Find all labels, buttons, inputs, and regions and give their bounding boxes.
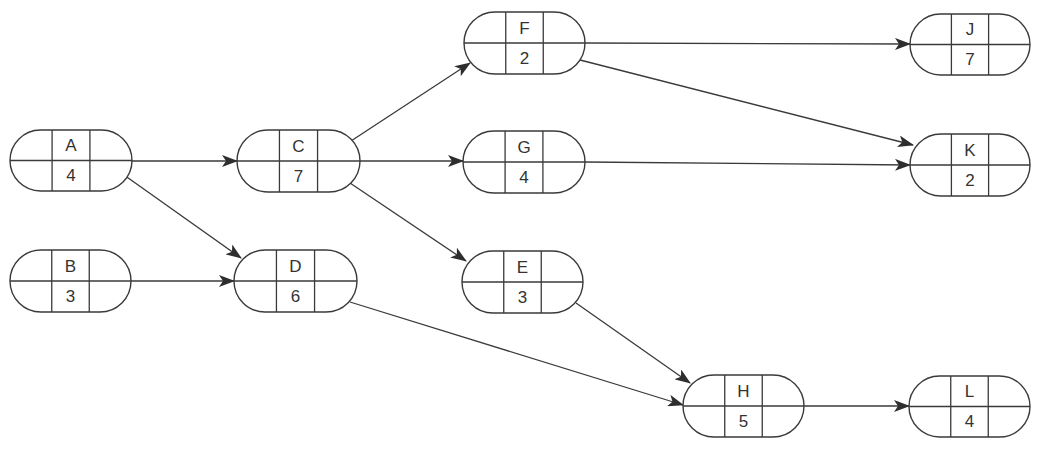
node-label: E [517,258,528,277]
node-duration: 7 [294,167,303,186]
node-duration: 3 [518,288,527,307]
edge-g-to-k [585,162,910,165]
activity-node-c: C7 [237,130,360,192]
node-duration: 3 [66,287,75,306]
node-duration: 5 [739,412,748,431]
activity-node-h: H5 [683,375,804,437]
nodes-layer: A4B3C7D6F2G4E3H5J7K2L4 [10,12,1030,437]
activity-node-j: J7 [910,14,1030,75]
edge-c-to-e [350,183,466,261]
edge-f-to-j [585,43,910,44]
edge-a-to-d [124,175,241,258]
edge-e-to-h [576,303,690,383]
node-label: J [966,20,975,39]
node-duration: 4 [66,166,75,185]
node-duration: 7 [965,50,974,69]
edge-c-to-f [351,63,470,141]
node-duration: 2 [520,49,529,68]
node-label: C [292,137,304,156]
network-diagram: A4B3C7D6F2G4E3H5J7K2L4 [0,0,1037,458]
activity-node-a: A4 [10,130,132,191]
edge-d-to-h [350,302,683,405]
activity-node-e: E3 [462,251,583,313]
node-label: H [737,382,749,401]
activity-node-f: F2 [464,12,585,74]
activity-node-k: K2 [910,134,1030,196]
node-label: K [964,141,976,160]
node-duration: 6 [291,287,300,306]
node-duration: 4 [965,412,974,431]
node-label: F [519,19,529,38]
node-label: G [517,138,530,157]
node-duration: 2 [965,171,974,190]
edges-layer [124,43,913,406]
edge-f-to-k [580,60,913,145]
activity-node-b: B3 [10,250,131,312]
node-label: L [965,382,974,401]
activity-node-l: L4 [909,376,1030,437]
node-label: D [289,257,301,276]
node-label: A [65,136,77,155]
node-duration: 4 [519,168,528,187]
node-label: B [65,257,76,276]
activity-node-d: D6 [234,250,357,312]
activity-node-g: G4 [463,131,585,193]
